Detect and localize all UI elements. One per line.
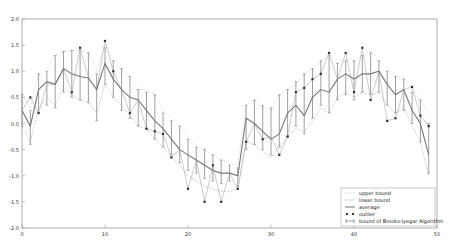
legend-outlier-icon: [346, 213, 348, 215]
outlier-marker: [245, 141, 247, 143]
outlier-marker: [419, 115, 421, 117]
outlier-marker: [287, 135, 289, 137]
outlier-marker: [320, 73, 322, 75]
outlier-marker: [170, 156, 172, 158]
outlier-marker: [38, 112, 40, 114]
outlier-marker: [154, 130, 156, 132]
x-tick-label: 40: [351, 231, 357, 237]
y-tick-label: 1.5: [11, 42, 19, 48]
x-tick-label: 20: [185, 231, 191, 237]
y-tick-label: 2.0: [11, 16, 19, 22]
outlier-marker: [187, 188, 189, 190]
outlier-marker: [411, 86, 413, 88]
outlier-marker: [220, 201, 222, 203]
outlier-marker: [295, 91, 297, 93]
outlier-marker: [278, 154, 280, 156]
y-tick-label: 1.0: [11, 68, 19, 74]
legend-outlier-icon-2: [352, 213, 354, 215]
outlier-marker: [71, 91, 73, 93]
outlier-marker: [104, 40, 106, 42]
legend-label-average: average: [359, 204, 379, 211]
outlier-marker: [204, 201, 206, 203]
outlier-marker: [370, 99, 372, 101]
outlier-marker: [79, 47, 81, 49]
x-tick-label: 30: [268, 231, 274, 237]
outlier-marker: [237, 188, 239, 190]
outlier-marker: [428, 125, 430, 127]
outlier-marker: [145, 128, 147, 130]
outlier-marker: [328, 52, 330, 54]
outlier-marker: [262, 138, 264, 140]
x-tick-label: 50: [434, 231, 440, 237]
outlier-marker: [129, 112, 131, 114]
outlier-marker: [311, 78, 313, 80]
outlier-marker: [29, 96, 31, 98]
x-tick-label: 10: [102, 231, 108, 237]
outlier-marker: [361, 47, 363, 49]
y-tick-label: -1.5: [9, 199, 19, 205]
outlier-marker: [345, 52, 347, 54]
outlier-marker: [112, 70, 114, 72]
outlier-marker: [162, 133, 164, 135]
outlier-marker: [386, 120, 388, 122]
x-tick-label: 0: [20, 231, 23, 237]
y-tick-label: -1.0: [9, 173, 19, 179]
y-tick-label: -2.0: [9, 225, 19, 231]
legend-label-upper: upper bound: [359, 190, 391, 197]
y-tick-label: 0.5: [11, 94, 19, 100]
legend: upper bound lower bound average outlier …: [341, 188, 444, 226]
y-tick-label: -0.5: [9, 147, 19, 153]
legend-label-lower: lower bound: [359, 197, 390, 203]
outlier-marker: [353, 91, 355, 93]
chart: 2.01.51.00.50.0-0.5-1.0-1.5-2.0 01020304…: [0, 0, 455, 245]
outlier-marker: [212, 164, 214, 166]
legend-label-bound: bound of Brooks-Iyegar Algorithm: [359, 218, 444, 225]
y-tick-label: 0.0: [11, 121, 19, 127]
outlier-marker: [303, 87, 305, 89]
outlier-marker: [394, 117, 396, 119]
legend-label-outlier: outlier: [359, 211, 376, 217]
